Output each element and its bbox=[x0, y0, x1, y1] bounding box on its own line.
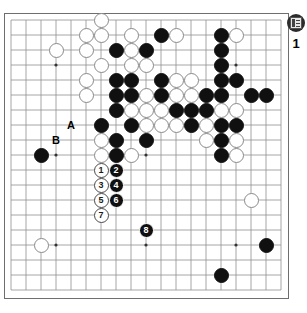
corner-widget[interactable]: 1 bbox=[285, 14, 307, 51]
go-board[interactable]: 12345678 AB bbox=[4, 13, 290, 300]
document-list-icon[interactable] bbox=[287, 14, 305, 32]
go-diagram-root: 12345678 AB 1 bbox=[0, 0, 307, 313]
label-layer: AB bbox=[4, 13, 290, 300]
coordinate-label-B: B bbox=[49, 133, 63, 147]
move-counter: 1 bbox=[285, 37, 307, 51]
coordinate-label-A: A bbox=[64, 118, 78, 132]
